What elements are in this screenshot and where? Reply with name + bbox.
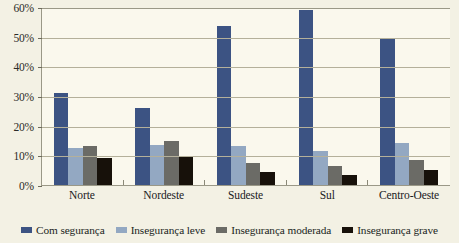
legend-swatch-icon (216, 227, 227, 233)
x-tick-label: Nordeste (123, 189, 205, 211)
legend-label: Insegurança moderada (231, 224, 331, 236)
gridline (42, 38, 450, 39)
legend-swatch-icon (116, 227, 127, 233)
plot-wrapper: 0%10%20%30%40%50%60% NorteNordesteSudest… (0, 0, 459, 216)
y-tick-label: 40% (14, 61, 34, 73)
legend-label: Com segurança (36, 224, 105, 236)
legend-item: Com segurança (21, 224, 105, 236)
y-tick-mark (38, 97, 42, 98)
plot-area (41, 8, 450, 186)
bar (83, 146, 98, 185)
y-tick-mark (38, 8, 42, 9)
y-tick-mark (38, 67, 42, 68)
bar-chart: 0%10%20%30%40%50%60% NorteNordesteSudest… (0, 0, 459, 243)
bar (97, 158, 112, 185)
gridline (42, 8, 450, 9)
bar (409, 160, 424, 185)
y-axis: 0%10%20%30%40%50%60% (0, 0, 38, 186)
bar (380, 38, 395, 185)
bar (217, 26, 232, 185)
y-tick-mark (38, 156, 42, 157)
y-tick-label: 30% (14, 91, 34, 103)
x-tick-label: Sudeste (205, 189, 287, 211)
legend-swatch-icon (21, 227, 32, 233)
bar (54, 93, 69, 185)
x-axis: NorteNordesteSudesteSulCentro-Oeste (41, 189, 450, 211)
y-tick-label: 20% (14, 121, 34, 133)
legend-item: Insegurança leve (116, 224, 206, 236)
x-tick-label: Norte (41, 189, 123, 211)
bar (395, 143, 410, 185)
chart-legend: Com segurançaInsegurança leveInsegurança… (0, 220, 459, 240)
gridline (42, 97, 450, 98)
bar (135, 108, 150, 185)
bar (150, 145, 165, 185)
y-tick-label: 60% (14, 2, 34, 14)
bar (424, 170, 439, 185)
gridline (42, 156, 450, 157)
legend-swatch-icon (342, 227, 353, 233)
gridline (42, 127, 450, 128)
x-tick-label: Centro-Oeste (368, 189, 450, 211)
bar (328, 166, 343, 185)
bar (342, 175, 357, 185)
y-tick-label: 10% (14, 150, 34, 162)
legend-label: Insegurança leve (131, 224, 206, 236)
y-tick-label: 0% (19, 180, 34, 192)
legend-item: Insegurança grave (342, 224, 438, 236)
x-tick-label: Sul (286, 189, 368, 211)
bar (179, 157, 194, 185)
y-tick-mark (38, 186, 42, 187)
y-tick-label: 50% (14, 32, 34, 44)
bar (246, 163, 261, 185)
legend-label: Insegurança grave (357, 224, 438, 236)
gridline (42, 67, 450, 68)
y-tick-mark (38, 127, 42, 128)
bar (260, 172, 275, 185)
y-tick-mark (38, 38, 42, 39)
legend-item: Insegurança moderada (216, 224, 331, 236)
bar (231, 146, 246, 185)
bar (164, 141, 179, 186)
bar (68, 148, 83, 185)
